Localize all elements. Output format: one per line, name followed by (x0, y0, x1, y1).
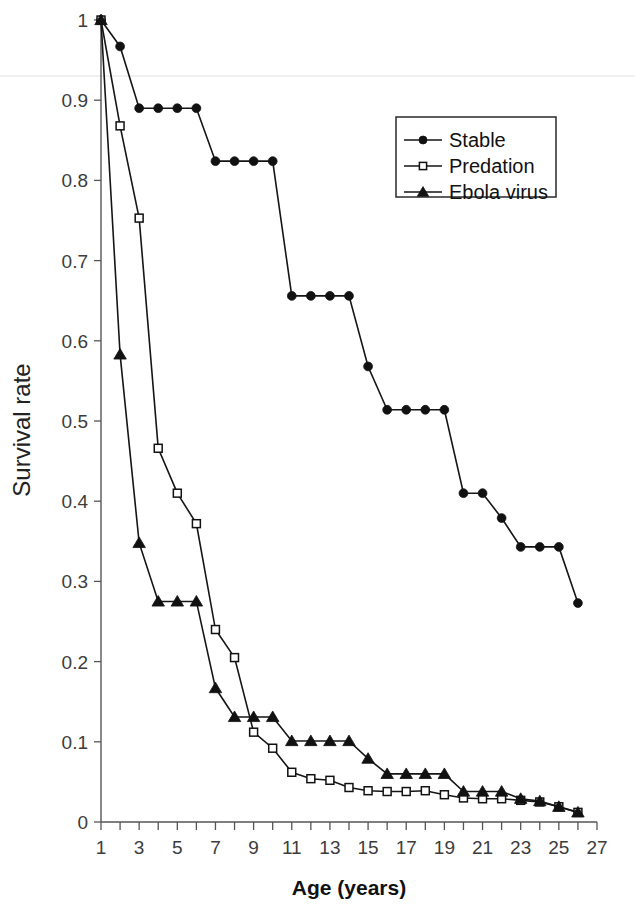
datapoint-marker-circle (478, 489, 487, 498)
datapoint-marker-circle (135, 104, 144, 113)
x-tick-label: 1 (96, 837, 107, 858)
legend-entry-label: Ebola virus (449, 181, 548, 203)
datapoint-marker-square (154, 444, 162, 452)
datapoint-marker-circle (516, 543, 525, 552)
datapoint-marker-square (421, 787, 429, 795)
legend-marker-square (419, 162, 426, 169)
y-tick-label: 0.6 (62, 331, 88, 352)
chart-legend: StablePredationEbola virus (396, 117, 556, 203)
datapoint-marker-circle (440, 405, 449, 414)
x-tick-label: 21 (472, 837, 493, 858)
datapoint-marker-circle (421, 405, 430, 414)
y-tick-label: 0.4 (62, 491, 89, 512)
x-tick-label: 7 (210, 837, 221, 858)
datapoint-marker-square (288, 768, 296, 776)
datapoint-marker-square (364, 787, 372, 795)
datapoint-marker-square (269, 744, 277, 752)
x-tick-label: 25 (548, 837, 569, 858)
datapoint-marker-circle (268, 157, 277, 166)
datapoint-marker-circle (211, 157, 220, 166)
x-tick-label: 9 (248, 837, 259, 858)
datapoint-marker-circle (154, 104, 163, 113)
datapoint-marker-circle (345, 291, 354, 300)
datapoint-marker-square (212, 626, 220, 634)
y-tick-label: 0.9 (62, 90, 88, 111)
y-tick-label: 1 (77, 10, 88, 31)
datapoint-marker-circle (574, 599, 583, 608)
datapoint-marker-square (383, 788, 391, 796)
datapoint-marker-circle (173, 104, 182, 113)
datapoint-marker-square (326, 776, 334, 784)
x-tick-label: 13 (319, 837, 340, 858)
y-tick-label: 0.7 (62, 251, 88, 272)
datapoint-marker-square (307, 775, 315, 783)
legend-entry-label: Predation (449, 155, 535, 177)
y-tick-label: 0 (77, 812, 88, 833)
datapoint-marker-square (135, 214, 143, 222)
datapoint-marker-circle (535, 543, 544, 552)
datapoint-marker-circle (326, 291, 335, 300)
x-axis-title: Age (years) (292, 876, 406, 899)
datapoint-marker-square (192, 520, 200, 528)
datapoint-marker-square (231, 654, 239, 662)
datapoint-marker-circle (116, 42, 125, 51)
datapoint-marker-circle (497, 514, 506, 523)
y-tick-label: 0.3 (62, 571, 88, 592)
datapoint-marker-square (116, 122, 124, 130)
datapoint-marker-circle (192, 104, 201, 113)
datapoint-marker-circle (306, 291, 315, 300)
survival-curve-chart: 00.10.20.30.40.50.60.70.80.91 1357911131… (0, 0, 635, 913)
datapoint-marker-circle (230, 157, 239, 166)
datapoint-marker-square (345, 784, 353, 792)
datapoint-marker-circle (287, 291, 296, 300)
y-tick-label: 0.1 (62, 732, 88, 753)
x-tick-label: 17 (396, 837, 417, 858)
datapoint-marker-square (250, 728, 258, 736)
datapoint-marker-circle (459, 489, 468, 498)
datapoint-marker-circle (249, 157, 258, 166)
x-tick-label: 27 (586, 837, 607, 858)
datapoint-marker-square (440, 791, 448, 799)
x-tick-label: 11 (282, 837, 302, 858)
x-tick-label: 5 (172, 837, 183, 858)
y-tick-label: 0.5 (62, 411, 88, 432)
x-tick-label: 3 (134, 837, 145, 858)
datapoint-marker-circle (364, 362, 373, 371)
datapoint-marker-square (173, 489, 181, 497)
datapoint-marker-circle (383, 405, 392, 414)
y-tick-label: 0.8 (62, 170, 88, 191)
y-axis-title: Survival rate (8, 363, 35, 496)
y-tick-label: 0.2 (62, 652, 88, 673)
datapoint-marker-circle (554, 543, 563, 552)
datapoint-marker-square (402, 788, 410, 796)
datapoint-marker-circle (402, 405, 411, 414)
legend-marker-circle (419, 136, 427, 144)
x-tick-label: 15 (358, 837, 379, 858)
legend-entry-label: Stable (449, 129, 506, 151)
x-tick-label: 19 (434, 837, 455, 858)
survival-rate-figure: 00.10.20.30.40.50.60.70.80.91 1357911131… (0, 0, 635, 913)
x-tick-label: 23 (510, 837, 531, 858)
